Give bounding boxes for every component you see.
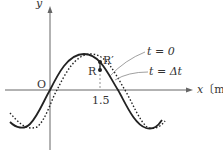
point-r-prime-label: R′ bbox=[103, 55, 114, 66]
point-r-label: R bbox=[88, 66, 96, 77]
y-axis-arrow-icon bbox=[48, 6, 53, 13]
curve-t0-label: t = 0 bbox=[147, 46, 175, 57]
x-tick-label: 1.5 bbox=[92, 95, 110, 106]
x-axis-label: x〔m〕 bbox=[197, 84, 223, 95]
y-axis-label: y bbox=[36, 0, 42, 9]
x-axis-arrow-icon bbox=[186, 88, 193, 93]
wave-t0-curve bbox=[10, 54, 162, 129]
origin-label: O bbox=[37, 79, 46, 90]
wave-diagram bbox=[0, 0, 223, 159]
curve-dt-label: t = Δt bbox=[149, 66, 182, 77]
x-axis-label-unit: 〔m〕 bbox=[203, 83, 223, 96]
leader-dt bbox=[115, 72, 148, 80]
